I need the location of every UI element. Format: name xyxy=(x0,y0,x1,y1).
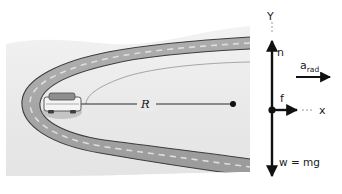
radial-acceleration-vector: arad xyxy=(296,59,330,77)
curve-center-dot xyxy=(230,101,236,107)
x-axis: x xyxy=(302,104,326,117)
origin-dot xyxy=(268,106,275,113)
car-cabin xyxy=(49,93,75,100)
free-body-diagram: Y x n w = mg f arad xyxy=(240,0,342,194)
car-wheel-rear xyxy=(70,110,76,114)
normal-force-label: n xyxy=(277,46,284,59)
radial-acceleration-label: arad xyxy=(300,59,319,74)
car-wheel-front xyxy=(48,110,54,114)
friction-force-label: f xyxy=(280,92,285,105)
radius-label: R xyxy=(140,97,150,111)
physics-figure: R Y x n xyxy=(0,0,342,194)
y-axis-label: Y xyxy=(266,10,274,23)
weight-force-label: w = mg xyxy=(279,156,320,168)
road-scene: R xyxy=(0,0,250,194)
car xyxy=(42,93,82,119)
x-axis-label: x xyxy=(319,104,326,117)
friction-force-vector: f xyxy=(272,92,297,110)
y-axis: Y xyxy=(266,10,274,34)
weight-force-vector: w = mg xyxy=(272,110,320,176)
